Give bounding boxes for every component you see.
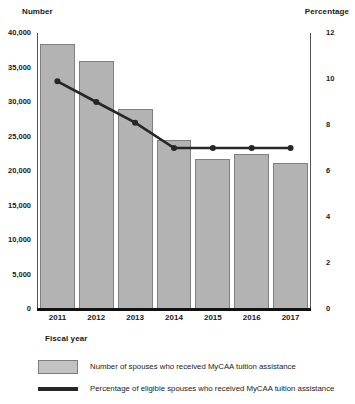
bar — [157, 140, 192, 309]
right-tick-label: 8 — [326, 121, 330, 129]
left-tick-label: 35,000 — [8, 64, 31, 72]
right-tick-label: 6 — [326, 167, 330, 175]
left-tick-label: 10,000 — [8, 236, 31, 244]
bar — [195, 159, 230, 309]
right-tick-label: 2 — [326, 259, 330, 267]
line-swatch-icon — [38, 387, 78, 391]
x-tick-label: 2013 — [116, 313, 155, 322]
left-tick-label: 5,000 — [12, 271, 31, 279]
left-tick-label: 30,000 — [8, 98, 31, 106]
left-tick-label: 15,000 — [8, 202, 31, 210]
bar — [40, 44, 75, 309]
bar-series — [38, 33, 310, 309]
bar — [118, 109, 153, 309]
right-tick-label: 12 — [326, 29, 334, 37]
right-tick-label: 0 — [326, 305, 330, 313]
legend-item-bar: Number of spouses who received MyCAA tui… — [38, 358, 338, 375]
x-tick-label: 2011 — [38, 313, 77, 322]
plot-area — [38, 33, 310, 309]
chart-legend: Number of spouses who received MyCAA tui… — [38, 358, 338, 402]
right-tick-label: 10 — [326, 75, 334, 83]
x-tick-label: 2017 — [271, 313, 310, 322]
bar — [273, 163, 308, 309]
x-tick-label: 2014 — [155, 313, 194, 322]
bar — [234, 154, 269, 309]
left-tick-label: 0 — [27, 305, 31, 313]
bar — [79, 61, 114, 309]
right-axis-line — [310, 33, 311, 309]
x-axis-title: Fiscal year — [45, 334, 87, 343]
left-axis-title: Number — [22, 7, 53, 16]
bar-swatch-icon — [38, 360, 78, 374]
chart-figure: Number Percentage 05,00010,00015,00020,0… — [0, 0, 355, 404]
x-tick-label: 2015 — [193, 313, 232, 322]
left-tick-label: 20,000 — [8, 167, 31, 175]
left-tick-label: 40,000 — [8, 29, 31, 37]
right-axis-title: Percentage — [305, 7, 349, 16]
left-tick-label: 25,000 — [8, 133, 31, 141]
x-axis-line — [37, 308, 311, 311]
legend-label-line: Percentage of eligible spouses who recei… — [90, 384, 334, 393]
legend-label-bar: Number of spouses who received MyCAA tui… — [90, 362, 296, 371]
legend-item-line: Percentage of eligible spouses who recei… — [38, 380, 338, 397]
x-tick-label: 2016 — [232, 313, 271, 322]
x-tick-label: 2012 — [77, 313, 116, 322]
right-tick-label: 4 — [326, 213, 330, 221]
